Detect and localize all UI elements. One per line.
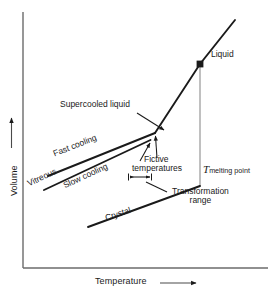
fictive-temperatures-line2: temperatures bbox=[132, 163, 182, 173]
transformation-range-label: Transformation range bbox=[172, 187, 229, 205]
liquid-label: Liquid bbox=[211, 50, 234, 59]
liquid-supercooled-curve bbox=[155, 20, 235, 133]
transformation-range-line2: range bbox=[172, 196, 229, 205]
volume-temperature-diagram: Volume Temperature Liquid Supercooled li… bbox=[0, 0, 278, 296]
fictive-temperatures-label: Fictive temperatures bbox=[144, 155, 194, 173]
diagram-canvas bbox=[0, 0, 278, 296]
supercooled-liquid-label: Supercooled liquid bbox=[60, 100, 130, 109]
y-axis-label: Volume bbox=[10, 165, 20, 196]
transformation-range-leader bbox=[146, 182, 167, 192]
axis-direction-arrows bbox=[12, 118, 197, 283]
transformation-range-extent bbox=[129, 174, 152, 181]
t-melting-subscript: melting point bbox=[209, 166, 250, 175]
x-axis-label: Temperature bbox=[95, 277, 147, 287]
melting-point-marker bbox=[197, 61, 204, 68]
supercooled-liquid-leader-arrow bbox=[137, 113, 164, 130]
t-melting-point-label: Tmelting point bbox=[203, 164, 250, 176]
